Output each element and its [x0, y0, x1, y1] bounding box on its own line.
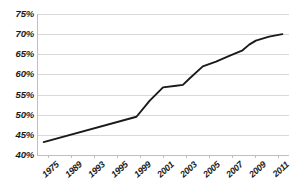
- x-axis-tick-mark: [117, 155, 118, 158]
- x-axis-tick-mark: [186, 155, 187, 158]
- series-line-rate: [44, 34, 283, 142]
- x-axis-tick-mark: [163, 155, 164, 158]
- x-axis-tick-mark: [71, 155, 72, 158]
- x-axis-tick-mark: [209, 155, 210, 158]
- x-axis-tick-mark: [94, 155, 95, 158]
- line-chart: 75%70%65%60%55%50%45%40% 197519891993199…: [0, 0, 301, 192]
- x-axis-tick-mark: [278, 155, 279, 158]
- x-axis-tick-mark: [255, 155, 256, 158]
- x-axis-tick-mark: [140, 155, 141, 158]
- x-axis-tick-mark: [232, 155, 233, 158]
- x-axis-tick-mark: [48, 155, 49, 158]
